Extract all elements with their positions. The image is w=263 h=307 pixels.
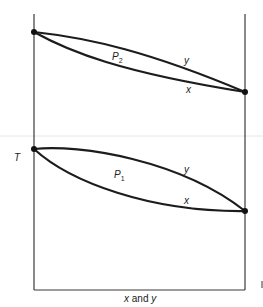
- scan-edge-mark: [261, 281, 263, 288]
- x-axis-label: x and y: [123, 293, 157, 304]
- p1-vapor-curve-y: [34, 148, 245, 211]
- p1-x-label: x: [183, 195, 190, 206]
- p2-x-label: x: [185, 84, 192, 95]
- p1-label: P1: [114, 169, 125, 182]
- p1-y-label: y: [183, 164, 190, 175]
- p2-label: P2: [112, 51, 123, 64]
- p2-right-endpoint: [242, 89, 248, 95]
- p1-left-endpoint: [31, 146, 37, 152]
- phase-diagram: P2 y x P1 y x T x and y: [0, 0, 263, 307]
- p1-liquid-curve-x: [34, 149, 245, 211]
- y-axis-label-T: T: [14, 152, 21, 163]
- p2-y-label: y: [183, 55, 190, 66]
- p2-liquid-curve-x: [34, 32, 245, 92]
- p2-left-endpoint: [31, 29, 37, 35]
- p1-right-endpoint: [242, 208, 248, 214]
- p2-vapor-curve-y: [34, 32, 245, 92]
